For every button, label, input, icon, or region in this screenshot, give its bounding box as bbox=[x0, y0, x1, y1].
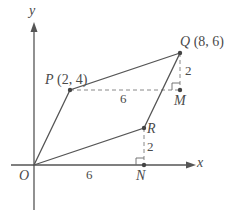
y-axis-label: y bbox=[29, 4, 35, 18]
point-r bbox=[142, 126, 146, 130]
measure-rn: 2 bbox=[147, 140, 154, 153]
x-axis-arrow-icon bbox=[186, 162, 196, 169]
point-q-label: Q (8, 6) bbox=[180, 35, 224, 49]
origin-label: O bbox=[19, 169, 29, 183]
measure-qm: 2 bbox=[185, 64, 192, 77]
point-q bbox=[178, 51, 182, 55]
point-q-name: Q bbox=[180, 34, 190, 49]
y-axis-arrow-icon bbox=[31, 22, 38, 32]
point-m bbox=[178, 88, 182, 92]
point-n bbox=[142, 163, 146, 167]
point-p-coords: (2, 4) bbox=[57, 72, 87, 87]
x-axis-label: x bbox=[197, 156, 203, 170]
point-r-label: R bbox=[147, 122, 156, 136]
parallelogram-opqr bbox=[34, 53, 180, 165]
point-p bbox=[68, 88, 72, 92]
point-m-label: M bbox=[174, 94, 186, 108]
point-n-label: N bbox=[136, 169, 145, 183]
point-p-label: P (2, 4) bbox=[45, 73, 87, 87]
measure-on: 6 bbox=[86, 168, 93, 181]
measure-pm: 6 bbox=[120, 92, 127, 105]
point-q-coords: (8, 6) bbox=[194, 34, 224, 49]
point-p-name: P bbox=[45, 72, 54, 87]
